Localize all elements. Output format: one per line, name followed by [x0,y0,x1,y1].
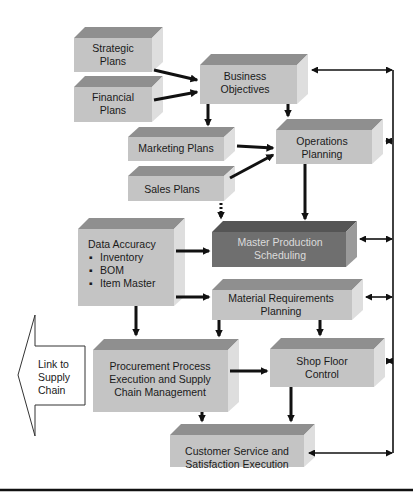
shop-floor-label-2: Control [305,368,339,380]
operations-planning-label-1: Operations [296,135,347,147]
financial-plans-label-2: Plans [100,104,126,116]
arrow-icon [230,155,273,178]
node-strategic-plans: Strategic Plans [74,27,163,72]
sales-plans-label: Sales Plans [144,183,199,195]
procurement-label-3: Chain Management [114,386,206,398]
mrp-label-1: Material Requirements [228,292,334,304]
procurement-label-1: Procurement Process [110,360,211,372]
node-business-objectives: Business Objectives [200,54,308,104]
mrp-label-2: Planning [261,305,302,317]
link-label-1: Link to [38,358,69,370]
data-accuracy-bullet-bom: BOM [100,264,124,276]
shop-floor-label-1: Shop Floor [296,355,348,367]
bullet-icon: ▪ [89,251,93,263]
mps-label-2: Scheduling [254,249,306,261]
link-to-supply-chain-arrow: Link to Supply Chain [18,315,85,436]
bullet-icon: ▪ [89,277,93,289]
marketing-plans-label: Marketing Plans [138,142,213,154]
data-accuracy-bullet-item-master: Item Master [100,277,156,289]
node-procurement: Procurement Process Execution and Supply… [93,339,239,412]
arrow-icon [237,146,273,148]
node-customer-service: Customer Service and Satisfaction Execut… [170,424,315,470]
procurement-label-2: Execution and Supply [109,373,211,385]
customer-service-label-2: Satisfaction Execution [185,458,288,470]
bullet-icon: ▪ [89,264,93,276]
link-label-2: Supply [38,371,71,383]
node-shop-floor-control: Shop Floor Control [270,338,385,387]
customer-service-label-1: Customer Service and [185,445,289,457]
mps-label-1: Master Production [237,236,322,248]
node-data-accuracy: Data Accuracy ▪ Inventory ▪ BOM ▪ Item M… [78,218,185,306]
node-master-production-scheduling: Master Production Scheduling [212,221,357,267]
financial-plans-label-1: Financial [92,91,134,103]
node-operations-planning: Operations Planning [276,119,383,164]
strategic-plans-label-1: Strategic [92,42,133,54]
strategic-plans-label-2: Plans [100,55,126,67]
link-label-3: Chain [38,384,66,396]
node-financial-plans: Financial Plans [74,76,163,122]
node-material-requirements-planning: Material Requirements Planning [212,279,363,320]
node-marketing-plans: Marketing Plans [128,127,235,161]
business-objectives-label-1: Business [224,70,267,82]
planning-flow-diagram: Strategic Plans Financial Plans Business… [0,0,413,496]
data-accuracy-title: Data Accuracy [88,238,156,250]
data-accuracy-bullet-inventory: Inventory [100,251,144,263]
operations-planning-label-2: Planning [302,148,343,160]
node-sales-plans: Sales Plans [128,166,235,201]
business-objectives-label-2: Objectives [220,83,269,95]
